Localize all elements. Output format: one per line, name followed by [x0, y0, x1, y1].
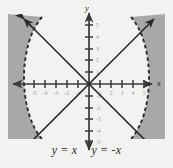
x-tick-label: -2 [65, 90, 70, 96]
y-tick-label: 4 [96, 34, 99, 40]
y-tick-label: 5 [96, 22, 99, 28]
y-tick-label: 3 [96, 46, 99, 52]
equation-y-equals-neg-x: y = -x [91, 143, 121, 158]
x-tick-label: 4 [132, 90, 135, 96]
y-axis-label: y [84, 3, 89, 13]
x-tick-label: 2 [110, 90, 113, 96]
equation-y-equals-x: y = x [52, 143, 78, 158]
y-tick-label: 2 [96, 57, 99, 63]
x-tick-label: 5 [143, 90, 146, 96]
x-tick-label: -4 [43, 90, 48, 96]
x-tick-label: 3 [121, 90, 124, 96]
y-tick-label: -4 [96, 128, 101, 134]
y-tick-label: -3 [96, 116, 101, 122]
x-tick-label: -3 [54, 90, 59, 96]
x-axis-label: x [156, 78, 161, 88]
equation-labels: y = x y = -x [0, 143, 173, 158]
x-tick-label: -5 [32, 90, 37, 96]
y-tick-label: -2 [96, 105, 101, 111]
